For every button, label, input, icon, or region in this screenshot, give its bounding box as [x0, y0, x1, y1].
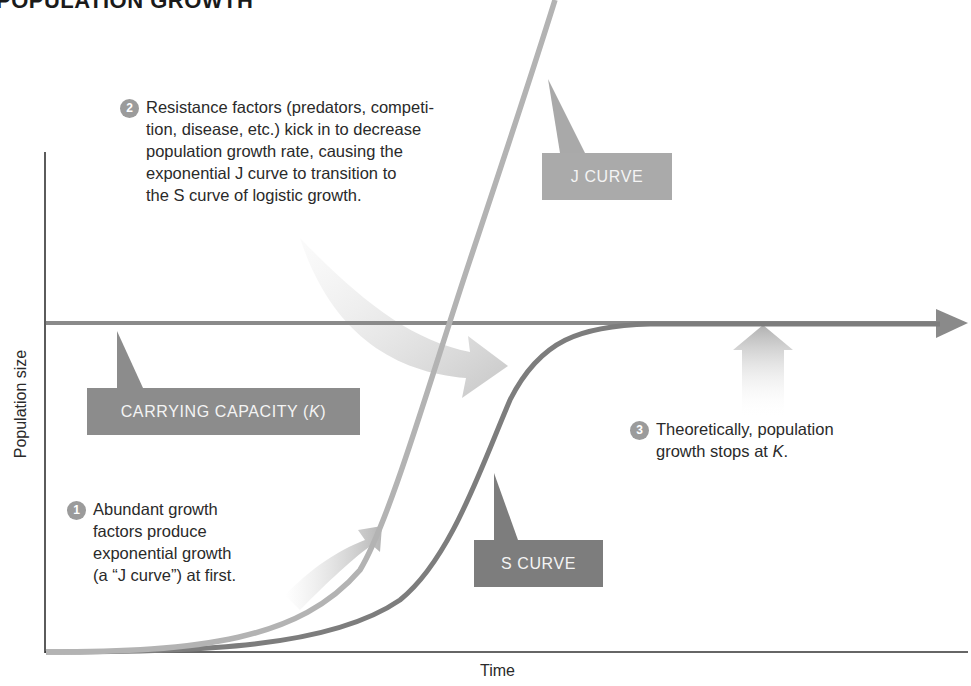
note-1-line: factors produce [67, 520, 236, 542]
carrying-capacity-pointer [117, 331, 143, 388]
note-2-line: the S curve of logistic growth. [120, 184, 434, 206]
note-2-line: population growth rate, causing the [120, 140, 434, 162]
k-symbol: K [309, 403, 320, 421]
note-1: 1Abundant growth factors produce exponen… [67, 498, 236, 586]
carrying-capacity-close: ) [320, 403, 326, 421]
note-2-line: exponential J curve to transition to [120, 162, 434, 184]
note-2: 2Resistance factors (predators, competi-… [120, 96, 434, 206]
resistance-arrow [300, 238, 508, 398]
note-1-line: (a “J curve”) at first. [67, 564, 236, 586]
y-axis-label: Population size [12, 349, 30, 459]
badge-1: 1 [67, 501, 86, 520]
x-axis-label: Time [480, 662, 515, 680]
note-2-line: Resistance factors (predators, competi- [146, 98, 434, 116]
note-2-line: tion, disease, etc.) kick in to decrease [120, 118, 434, 140]
badge-3: 3 [630, 421, 649, 440]
note-3-line: growth stops at K. [630, 440, 834, 462]
badge-2: 2 [120, 99, 139, 118]
s-curve-label: S CURVE [474, 540, 603, 587]
j-curve-label: J CURVE [542, 153, 672, 200]
note-3: 3Theoretically, population growth stops … [630, 418, 834, 462]
carrying-capacity-text: CARRYING CAPACITY ( [121, 403, 309, 421]
carrying-capacity-label: CARRYING CAPACITY (K) [87, 388, 360, 435]
note-1-line: exponential growth [67, 542, 236, 564]
note-3-period: . [784, 442, 789, 460]
note-3-line: Theoretically, population [656, 420, 834, 438]
note-1-line: Abundant growth [93, 500, 218, 518]
j-curve-pointer [548, 79, 585, 153]
k-symbol: K [772, 442, 783, 460]
note-3-text: growth stops at [656, 442, 772, 460]
limit-arrow [733, 325, 793, 418]
s-curve-pointer [494, 473, 518, 540]
